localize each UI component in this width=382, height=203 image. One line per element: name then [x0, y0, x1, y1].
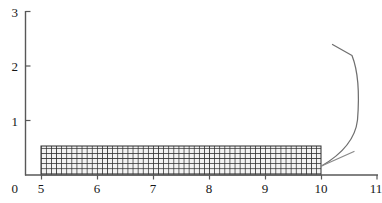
x-tick-label-9: 9 [262, 182, 269, 195]
y-tick-label-3: 3 [4, 6, 18, 19]
x-tick-label-11: 11 [370, 182, 382, 195]
x-tick-label-10: 10 [315, 182, 328, 195]
x-tick-label-6: 6 [94, 182, 101, 195]
x-tick-label-7: 7 [150, 182, 157, 195]
y-tick-label-1: 1 [4, 115, 18, 128]
hatched-band-series [41, 146, 321, 175]
x-tick-label-8: 8 [206, 182, 213, 195]
plot-canvas [0, 0, 382, 203]
annotation-arrow-head [322, 152, 355, 167]
hatched-band-rect [41, 146, 321, 175]
y-tick-label-0: 0 [4, 182, 18, 195]
annotation-arrow-curve [322, 45, 359, 167]
y-axis-ticks [26, 12, 31, 121]
chart-figure: 3 2 1 0 5 6 7 8 9 10 11 [0, 0, 382, 203]
x-tick-label-5: 5 [38, 182, 45, 195]
y-tick-label-2: 2 [4, 60, 18, 73]
annotation-arrow-group [322, 45, 359, 167]
